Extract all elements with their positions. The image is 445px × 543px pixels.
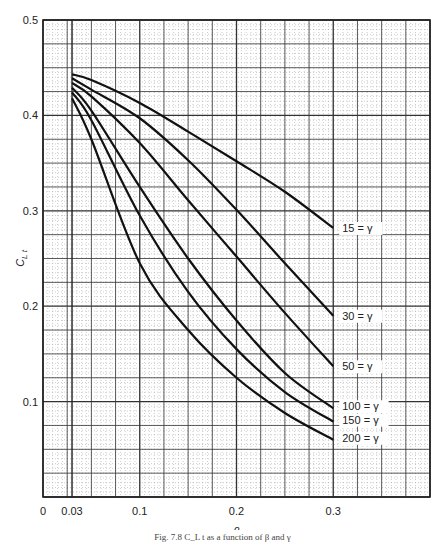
curve-label: 50 = γ [342, 360, 373, 372]
curve-label: 200 = γ [342, 432, 379, 444]
x-axis-label: β [232, 525, 240, 530]
y-tick-label: 0.3 [23, 205, 38, 217]
curve-gamma-15 [72, 74, 333, 228]
curve-label: 150 = γ [342, 414, 379, 426]
curve-label: 100 = γ [342, 400, 379, 412]
y-axis-label: CL t [14, 249, 29, 266]
y-tick-label: 0.2 [23, 300, 38, 312]
chart: 15 = γ30 = γ50 = γ100 = γ150 = γ200 = γ0… [0, 0, 445, 530]
x-tick-label: 0.1 [132, 505, 147, 517]
x-tick-label: 0.2 [229, 505, 244, 517]
curve-label: 30 = γ [342, 310, 373, 322]
x-tick-label: 0.3 [326, 505, 341, 517]
y-axis-ticks: 0.10.20.30.40.5 [23, 14, 38, 408]
x-tick-label: 0.03 [61, 505, 82, 517]
curves: 15 = γ30 = γ50 = γ100 = γ150 = γ200 = γ [72, 74, 389, 444]
y-tick-label: 0.1 [23, 396, 38, 408]
x-axis-ticks: 00.030.10.20.3 [40, 505, 341, 517]
y-tick-label: 0.4 [23, 109, 38, 121]
figure-caption: Fig. 7.8 C_L t as a function of β and γ [0, 532, 445, 542]
curve-label: 15 = γ [342, 222, 373, 234]
x-tick-label: 0 [40, 505, 46, 517]
y-tick-label: 0.5 [23, 14, 38, 26]
